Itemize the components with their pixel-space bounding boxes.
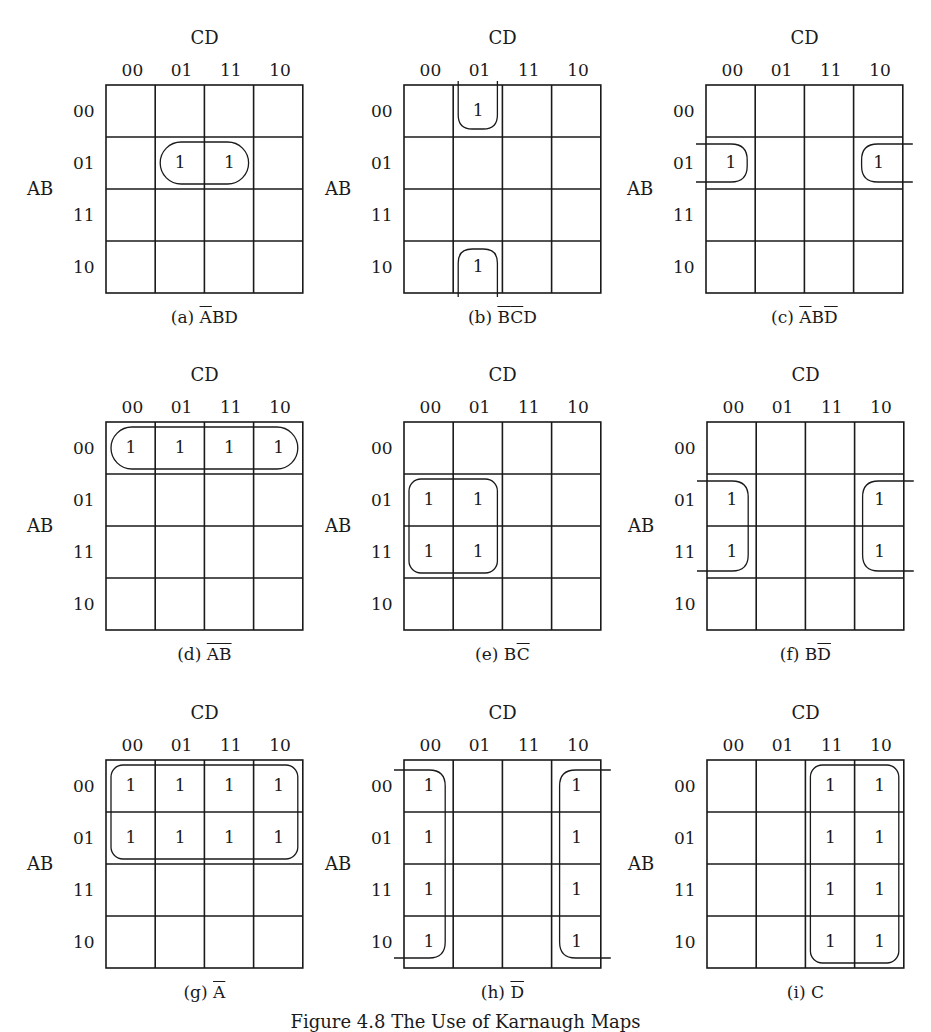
cell-value-one: 1 [175, 154, 186, 171]
cell-value-one: 1 [424, 829, 435, 846]
kmap-expression-term: B [219, 644, 232, 664]
cell-value-one: 1 [424, 881, 435, 898]
cell-value-one: 1 [424, 543, 435, 560]
cell-value-one: 1 [825, 829, 836, 846]
cell-value-one: 1 [424, 933, 435, 950]
kmap-d: CD00011110AB000111101111(d) AB [0, 337, 310, 667]
kmap-a: CD00011110AB0001111011(a) ABD [0, 0, 310, 330]
cell-value-one: 1 [224, 777, 235, 794]
cell-value-one: 1 [273, 777, 284, 794]
cell-value-one: 1 [175, 777, 186, 794]
cell-value-one: 1 [273, 439, 284, 456]
cell-value-one: 1 [571, 881, 582, 898]
kmap-grid [0, 0, 310, 330]
kmap-expression-term: C [510, 307, 523, 327]
kmap-grid [298, 675, 608, 1005]
kmap-expression-term: B [812, 307, 825, 327]
cell-value-one: 1 [874, 881, 885, 898]
kmap-caption-label: (h) [481, 982, 511, 1002]
figure-caption: Figure 4.8 The Use of Karnaugh Maps [290, 1011, 640, 1032]
cell-value-one: 1 [874, 491, 885, 508]
cell-value-one: 1 [727, 491, 738, 508]
kmap-b: CD00011110AB0001111011(b) BCD [298, 0, 608, 330]
kmap-caption-label: (b) [468, 307, 498, 327]
cell-value-one: 1 [473, 491, 484, 508]
cell-value-one: 1 [224, 829, 235, 846]
cell-value-one: 1 [727, 543, 738, 560]
kmap-e: CD00011110AB000111101111(e) BC [298, 337, 608, 667]
kmap-caption-f: (f) BD [780, 644, 831, 664]
kmap-caption-c: (c) ABD [771, 307, 838, 327]
cell-value-one: 1 [126, 439, 137, 456]
cell-value-one: 1 [473, 543, 484, 560]
kmap-expression-term: B [497, 307, 510, 327]
kmap-expression-term: C [517, 644, 530, 664]
cell-value-one: 1 [874, 777, 885, 794]
kmap-caption-d: (d) AB [177, 644, 231, 664]
kmap-caption-b: (b) BCD [468, 307, 537, 327]
kmap-expression-term: A [200, 307, 212, 327]
kmap-caption-label: (d) [177, 644, 207, 664]
kmap-grid [0, 675, 310, 1005]
cell-value-one: 1 [874, 543, 885, 560]
kmap-expression-term: D [824, 307, 838, 327]
cell-value-one: 1 [873, 154, 884, 171]
cell-value-one: 1 [424, 491, 435, 508]
kmap-caption-e: (e) BC [475, 644, 530, 664]
kmap-expression-term: C [811, 982, 824, 1002]
cell-value-one: 1 [571, 933, 582, 950]
kmap-grid [298, 337, 608, 667]
kmap-grid [601, 675, 911, 1005]
kmap-expression-term: D [523, 307, 537, 327]
kmap-grid [601, 337, 911, 667]
kmap-caption-label: (a) [171, 307, 200, 327]
cell-value-one: 1 [571, 829, 582, 846]
kmap-caption-label: (g) [183, 982, 213, 1002]
kmap-h: CD00011110AB0001111011111111(h) D [298, 675, 608, 1005]
kmap-grid [600, 0, 910, 330]
cell-value-one: 1 [825, 881, 836, 898]
kmap-expression-term: B [805, 644, 818, 664]
kmap-expression-term: D [510, 982, 524, 1002]
kmap-caption-label: (f) [780, 644, 805, 664]
kmap-grid [0, 337, 310, 667]
kmap-caption-label: (i) [787, 982, 811, 1002]
kmap-caption-h: (h) D [481, 982, 524, 1002]
kmap-i: CD00011110AB0001111011111111(i) C [601, 675, 911, 1005]
cell-value-one: 1 [224, 439, 235, 456]
kmap-caption-label: (e) [475, 644, 504, 664]
kmap-f: CD00011110AB000111101111(f) BD [601, 337, 911, 667]
cell-value-one: 1 [273, 829, 284, 846]
kmap-c: CD00011110AB0001111011(c) ABD [600, 0, 910, 330]
cell-value-one: 1 [825, 777, 836, 794]
kmap-expression-term: BD [212, 307, 238, 327]
cell-value-one: 1 [726, 154, 737, 171]
kmap-expression-term: A [213, 982, 225, 1002]
cell-value-one: 1 [175, 439, 186, 456]
cell-value-one: 1 [126, 777, 137, 794]
cell-value-one: 1 [874, 829, 885, 846]
kmap-caption-g: (g) A [183, 982, 225, 1002]
cell-value-one: 1 [126, 829, 137, 846]
cell-value-one: 1 [424, 777, 435, 794]
kmap-caption-label: (c) [771, 307, 799, 327]
cell-value-one: 1 [473, 102, 484, 119]
cell-value-one: 1 [175, 829, 186, 846]
kmap-expression-term: B [504, 644, 517, 664]
kmap-caption-i: (i) C [787, 982, 824, 1002]
kmap-expression-term: D [817, 644, 831, 664]
cell-value-one: 1 [825, 933, 836, 950]
cell-value-one: 1 [571, 777, 582, 794]
kmap-caption-a: (a) ABD [171, 307, 238, 327]
cell-value-one: 1 [473, 258, 484, 275]
kmap-expression-term: A [799, 307, 811, 327]
kmap-g: CD00011110AB0001111011111111(g) A [0, 675, 310, 1005]
cell-value-one: 1 [874, 933, 885, 950]
kmap-grid [298, 0, 608, 330]
kmap-expression-term: A [207, 644, 219, 664]
cell-value-one: 1 [224, 154, 235, 171]
